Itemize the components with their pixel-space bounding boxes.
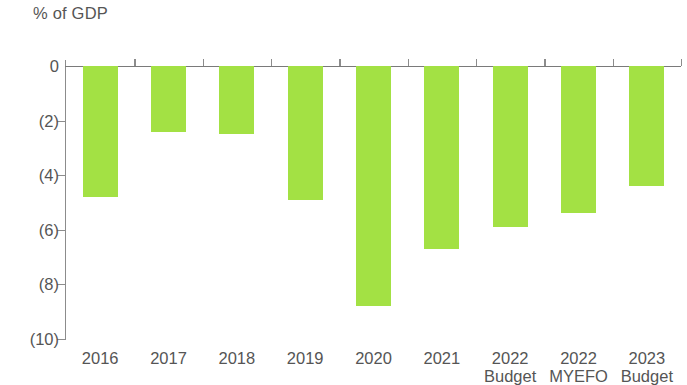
y-tick-label: (8) <box>39 275 59 294</box>
x-axis-label-1: 2017 <box>134 349 202 367</box>
x-tick-mark <box>681 59 682 66</box>
bar-2020 <box>356 66 391 306</box>
x-tick-mark <box>408 59 409 66</box>
plot-area: 0(2)(4)(6)(8)(10) 2016201720182019202020… <box>66 66 681 339</box>
x-axis-label-line: 2016 <box>66 349 134 367</box>
x-tick-mark <box>544 59 545 66</box>
x-axis-label-line: 2017 <box>134 349 202 367</box>
x-tick-mark <box>613 59 614 66</box>
x-axis-label-line: Budget <box>476 367 544 385</box>
y-tick-label: (10) <box>30 330 59 349</box>
y-axis-title: % of GDP <box>33 4 108 23</box>
x-axis-label-line: Budget <box>613 367 681 385</box>
bar-2023-budget <box>629 66 664 186</box>
x-axis-label-line: 2022 <box>544 349 612 367</box>
x-axis-label-8: 2023Budget <box>613 349 681 385</box>
x-axis-label-line: 2019 <box>271 349 339 367</box>
x-axis-label-line: MYEFO <box>544 367 612 385</box>
x-axis-label-line: 2020 <box>339 349 407 367</box>
x-axis-label-line: 2022 <box>476 349 544 367</box>
x-tick-mark <box>271 59 272 66</box>
x-axis-label-2: 2018 <box>203 349 271 367</box>
x-tick-mark <box>134 59 135 66</box>
x-axis-label-4: 2020 <box>339 349 407 367</box>
x-axis-label-line: 2023 <box>613 349 681 367</box>
x-tick-mark <box>203 59 204 66</box>
x-tick-mark <box>476 59 477 66</box>
bar-2017 <box>151 66 186 132</box>
bar-2022-budget <box>493 66 528 227</box>
bar-2021 <box>424 66 459 249</box>
bar-2016 <box>83 66 118 197</box>
y-tick-label: (2) <box>39 111 59 130</box>
x-axis-label-5: 2021 <box>408 349 476 367</box>
y-tick-label: (6) <box>39 220 59 239</box>
bar-2019 <box>288 66 323 200</box>
bar-2018 <box>219 66 254 134</box>
bar-2022-myefo <box>561 66 596 213</box>
x-axis-label-7: 2022MYEFO <box>544 349 612 385</box>
x-axis-label-6: 2022Budget <box>476 349 544 385</box>
y-tick-label: 0 <box>50 57 59 76</box>
x-axis-label-0: 2016 <box>66 349 134 367</box>
x-axis-label-line: 2018 <box>203 349 271 367</box>
x-axis-label-3: 2019 <box>271 349 339 367</box>
y-tick-label: (4) <box>39 166 59 185</box>
x-tick-mark <box>339 59 340 66</box>
x-axis-label-line: 2021 <box>408 349 476 367</box>
